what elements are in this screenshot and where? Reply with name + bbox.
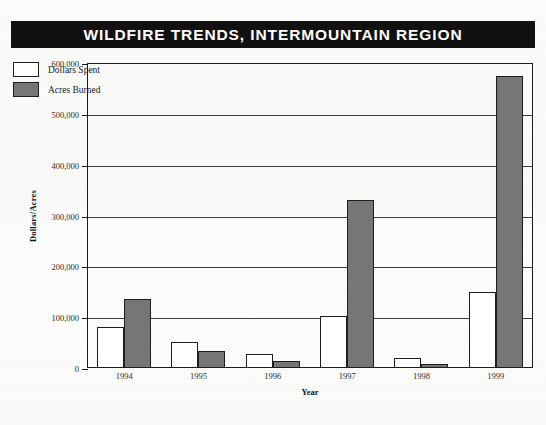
bar-group <box>161 63 235 368</box>
bar-group <box>310 63 384 368</box>
bar-dollars-spent-1997 <box>320 316 347 368</box>
y-axis-tick-mark <box>82 369 88 370</box>
chart-legend: Dollars Spent Acres Burned <box>13 62 101 97</box>
bar-acres-burned-1997 <box>347 200 374 368</box>
bar-dollars-spent-1995 <box>171 342 198 368</box>
chart-figure: Dollars/Acres 0100,000200,000300,000400,… <box>0 55 546 400</box>
bar-group <box>87 63 161 368</box>
x-axis-tick-label: 1994 <box>87 371 161 381</box>
bar-acres-burned-1996 <box>273 361 300 368</box>
x-axis-tick-label: 1995 <box>161 371 235 381</box>
bar-dollars-spent-1999 <box>469 292 496 368</box>
y-axis-tick-label: 400,000 <box>51 161 79 171</box>
y-axis-tick-label: 500,000 <box>51 110 79 120</box>
bars-layer <box>87 63 533 368</box>
y-axis-tick-label: 100,000 <box>51 313 79 323</box>
x-axis-tick-label: 1997 <box>310 371 384 381</box>
x-axis-tick-labels: 199419951996199719981999 <box>87 371 533 381</box>
x-axis-tick-label: 1998 <box>384 371 458 381</box>
y-axis-title-label: Dollars/Acres <box>28 189 38 241</box>
bar-acres-burned-1995 <box>198 351 225 368</box>
x-axis-title: Year <box>87 387 533 397</box>
y-axis-title: Dollars/Acres <box>26 63 40 368</box>
legend-item: Acres Burned <box>13 82 101 97</box>
x-axis-tick-label: 1996 <box>236 371 310 381</box>
bar-acres-burned-1998 <box>421 364 448 368</box>
legend-item-label: Acres Burned <box>48 85 101 95</box>
bar-group <box>236 63 310 368</box>
page-title: WILDFIRE TRENDS, INTERMOUNTAIN REGION <box>83 26 462 44</box>
white-square-icon <box>13 62 39 77</box>
legend-item: Dollars Spent <box>13 62 101 77</box>
y-axis-tick-label: 200,000 <box>51 262 79 272</box>
chart-title-banner: WILDFIRE TRENDS, INTERMOUNTAIN REGION <box>11 21 535 48</box>
bar-group <box>459 63 533 368</box>
gray-square-icon <box>13 82 39 97</box>
y-axis-tick-label: 0 <box>75 364 79 374</box>
bar-acres-burned-1999 <box>496 76 523 368</box>
bar-group <box>384 63 458 368</box>
bar-acres-burned-1994 <box>124 299 151 368</box>
bar-dollars-spent-1998 <box>394 358 421 368</box>
legend-item-label: Dollars Spent <box>48 65 100 75</box>
bar-dollars-spent-1994 <box>97 327 124 368</box>
bar-dollars-spent-1996 <box>246 354 273 368</box>
x-axis-tick-label: 1999 <box>459 371 533 381</box>
y-axis-tick-label: 300,000 <box>51 212 79 222</box>
